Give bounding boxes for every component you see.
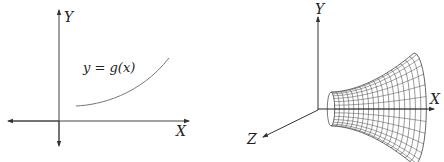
curve-label: y = g(x) [82,60,135,75]
right-diagram: Y Z X [246,1,441,162]
y-axis-label-3d: Y [315,1,326,17]
wireframe-surface [327,53,426,162]
x-axis-label-3d: X [429,91,441,107]
z-axis-label-3d: Z [246,131,257,147]
figure: Y X y = g(x) Y Z X [0,0,444,162]
x-axis-label: X [175,123,187,139]
y-axis-label: Y [64,9,75,25]
z-axis-3d [263,110,318,137]
left-diagram: Y X y = g(x) [8,9,189,146]
